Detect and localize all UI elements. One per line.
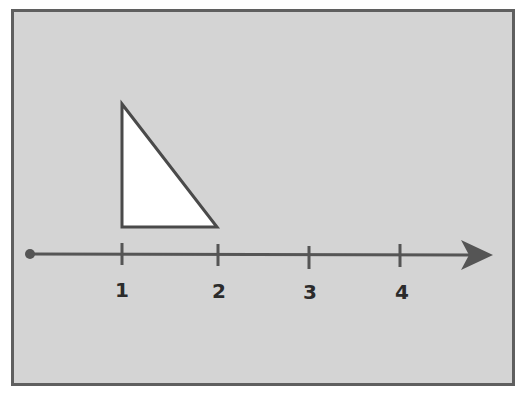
tick-label-1: 1 [115, 278, 129, 302]
number-line-axis [30, 254, 470, 255]
tick-label-3: 3 [303, 280, 317, 304]
tick-label-2: 2 [212, 279, 226, 303]
right-triangle [122, 104, 217, 227]
tick-label-4: 4 [395, 280, 409, 304]
origin-dot [25, 249, 35, 259]
number-line-diagram: 1 2 3 4 [0, 0, 524, 401]
